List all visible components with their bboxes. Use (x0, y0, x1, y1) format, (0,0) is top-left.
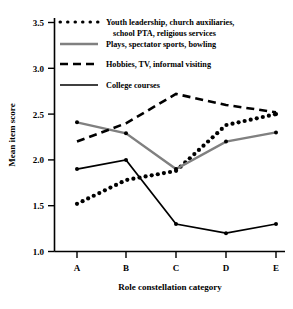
y-axis-ticks (48, 23, 55, 252)
legend-label-line1: Youth leadership, church auxiliaries, (106, 18, 234, 27)
x-tick-label: A (74, 263, 81, 273)
y-axis-tick-labels: 3.5 3.0 2.5 2.0 1.5 1.0 (33, 18, 45, 257)
x-tick-label: B (123, 263, 129, 273)
legend-item-plays-spectator-sports: Plays, spectator sports, bowling (60, 40, 217, 49)
y-tick-label: 3.5 (33, 18, 45, 28)
x-tick-label: D (223, 263, 230, 273)
y-axis-title: Mean item score (7, 103, 17, 166)
legend-label-line1: Hobbies, TV, informal visiting (106, 60, 212, 69)
line-chart: 3.5 3.0 2.5 2.0 1.5 1.0 Mean item score … (0, 0, 293, 309)
y-tick-label: 2.0 (33, 155, 45, 165)
legend-item-youth-leadership: Youth leadership, church auxiliaries, sc… (60, 18, 234, 38)
y-tick-label: 2.5 (33, 110, 45, 120)
y-tick-label: 1.0 (33, 247, 45, 257)
y-tick-label: 3.0 (33, 64, 45, 74)
legend-item-college-courses: College courses (60, 81, 160, 90)
x-axis-title: Role constellation category (118, 282, 222, 292)
x-axis-tick-labels: A B C D E (74, 263, 279, 273)
x-tick-label: E (273, 263, 279, 273)
chart-legend: Youth leadership, church auxiliaries, sc… (60, 18, 234, 90)
legend-label-line1: College courses (106, 81, 160, 90)
legend-label-line2: school PTA, religious services (113, 29, 216, 38)
series-0 (75, 112, 278, 206)
data-series-layer (75, 94, 278, 235)
x-tick-label: C (173, 263, 180, 273)
chart-container: 3.5 3.0 2.5 2.0 1.5 1.0 Mean item score … (0, 0, 293, 309)
x-axis-ticks (77, 252, 276, 259)
legend-label-line1: Plays, spectator sports, bowling (106, 40, 217, 49)
series-2 (77, 94, 276, 142)
y-tick-label: 1.5 (33, 201, 45, 211)
legend-item-hobbies-tv: Hobbies, TV, informal visiting (60, 60, 212, 69)
